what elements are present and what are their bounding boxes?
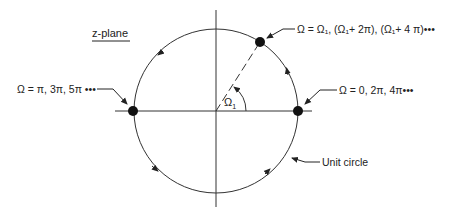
leader-omega1 [267, 29, 295, 38]
point-label-omega1: Ω = Ω₁, (Ω₁+ 2π), (Ω₁+ 4 π)••• [297, 23, 435, 35]
point-label-pi: Ω = π, 3π, 5π ••• [17, 83, 96, 95]
leader-pi [97, 89, 127, 104]
angle-label: Ω1 [224, 96, 236, 110]
radius-line [216, 42, 260, 111]
leader-unit-circle [292, 158, 320, 162]
unit-circle-label: Unit circle [322, 156, 368, 168]
point-label-zero: Ω = 0, 2π, 4π••• [339, 84, 414, 96]
point-zero [293, 106, 303, 116]
point-omega1 [255, 37, 265, 47]
plane-label: z-plane [92, 27, 128, 39]
point-pi [128, 106, 138, 116]
leader-zero [305, 90, 337, 104]
z-plane-diagram: Ω1 z-plane Ω = Ω₁, (Ω₁+ 2π), (Ω₁+ 4 π)••… [0, 0, 457, 217]
